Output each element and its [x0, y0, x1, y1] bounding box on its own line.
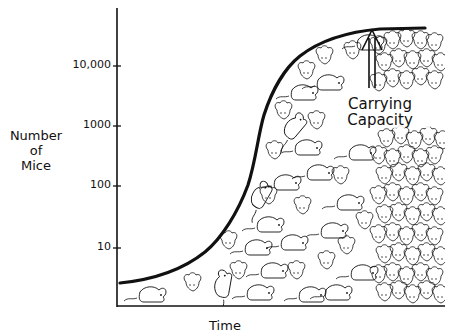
x-axis-label: Time: [195, 318, 255, 333]
arrow-up-icon: [362, 30, 382, 88]
y-tick-10: 10: [61, 240, 111, 253]
y-axis-label: Number of Mice: [6, 128, 66, 173]
y-tick-10000: 10,000: [61, 58, 111, 71]
y-tick-1000: 1000: [61, 118, 111, 131]
y-tick-100: 100: [61, 178, 111, 191]
carrying-capacity-annotation: Carrying Capacity: [330, 96, 430, 128]
